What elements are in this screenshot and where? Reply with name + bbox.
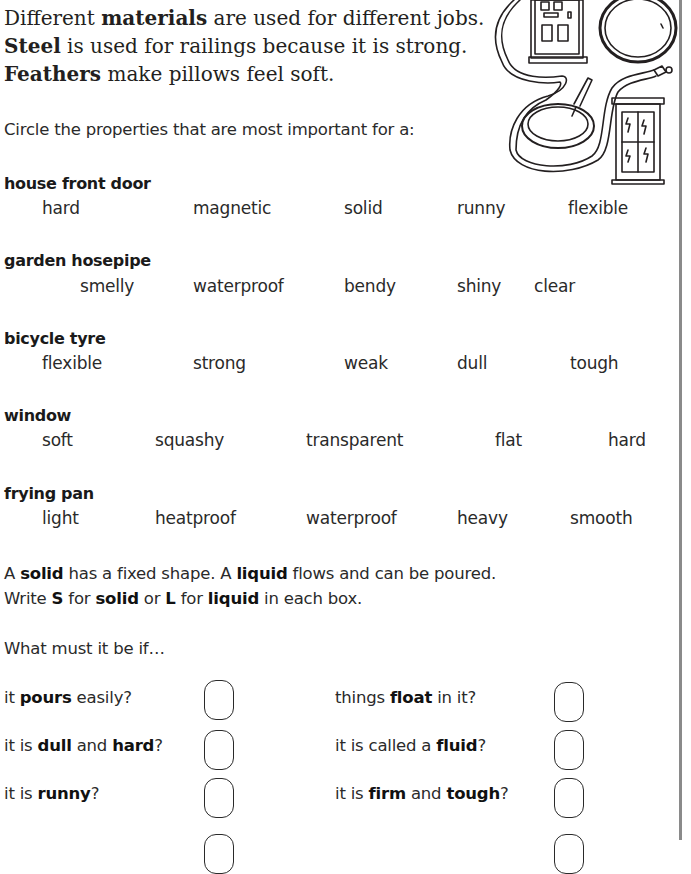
bold-term: solid [20,564,63,583]
text-segment: ? [91,784,100,803]
question-right-3: it is firm and tough? [335,784,509,803]
property-option[interactable]: waterproof [306,508,397,528]
text-segment: in it? [432,688,476,707]
door-icon [529,0,587,63]
answer-box[interactable] [204,680,234,720]
property-option[interactable]: magnetic [193,198,271,218]
property-option[interactable]: heavy [457,508,508,528]
bold-term: firm [369,784,406,803]
text-segment: Write [4,589,52,608]
bold-term: float [390,688,432,707]
property-option[interactable]: runny [457,198,505,218]
property-option[interactable]: solid [344,198,383,218]
text-segment: in each box. [259,589,362,608]
window-icon [612,98,664,184]
intro-text-segment: are used for different jobs. [207,6,484,30]
bold-term: Steel [4,34,61,58]
bold-term: pours [20,688,72,707]
question-left-1: it pours easily? [4,688,132,707]
box-instruction: Write S for solid or L for liquid in eac… [4,589,362,608]
answer-box[interactable] [204,730,234,770]
answer-box[interactable] [554,682,584,722]
text-segment: has a fixed shape. A [63,564,236,583]
question-left-2: it is dull and hard? [4,736,163,755]
bold-term: dull [38,736,72,755]
property-option[interactable]: light [42,508,79,528]
item-title-house-front-door: house front door [4,174,151,193]
text-segment: for [176,589,208,608]
answer-box[interactable] [204,778,234,818]
bold-term: S [52,589,64,608]
property-option[interactable]: heatproof [155,508,236,528]
text-segment: flows and can be poured. [288,564,496,583]
property-option[interactable]: hard [42,198,80,218]
text-segment: it is [4,736,38,755]
text-segment: it [4,688,20,707]
bold-term: tough [446,784,500,803]
property-option[interactable]: strong [193,353,246,373]
intro-line-3: Feathers make pillows feel soft. [4,60,504,88]
text-segment: or [139,589,166,608]
item-title-garden-hosepipe: garden hosepipe [4,251,151,270]
property-option[interactable]: shiny [457,276,501,296]
property-option[interactable]: smelly [80,276,134,296]
bold-term: liquid [236,564,287,583]
property-option[interactable]: flat [495,430,522,450]
intro-line-2: Steel is used for railings because it is… [4,32,504,60]
question-right-2: it is called a fluid? [335,736,486,755]
property-option[interactable]: waterproof [193,276,284,296]
bold-term: materials [101,6,207,30]
property-option[interactable]: soft [42,430,73,450]
text-segment: ? [477,736,486,755]
page-edge-rule [679,0,682,840]
property-option[interactable]: weak [344,353,388,373]
property-option[interactable]: smooth [570,508,632,528]
property-option[interactable]: hard [608,430,646,450]
bold-term: L [165,589,175,608]
intro-text-segment: is used for railings because it is stron… [61,34,468,58]
item-title-frying-pan: frying pan [4,484,94,503]
bold-term: solid [95,589,138,608]
property-option[interactable]: flexible [568,198,628,218]
answer-box[interactable] [554,730,584,770]
bold-term: fluid [436,736,477,755]
property-option[interactable]: dull [457,353,487,373]
item-title-bicycle-tyre: bicycle tyre [4,329,105,348]
solid-liquid-definition: A solid has a fixed shape. A liquid flow… [4,564,496,583]
text-segment: and [406,784,447,803]
answer-box[interactable] [204,834,234,874]
text-segment: and [72,736,113,755]
tyre-icon [600,0,676,62]
bold-term: liquid [208,589,259,608]
answer-box[interactable] [554,778,584,818]
intro-line-1: Different materials are used for differe… [4,4,504,32]
property-option[interactable]: transparent [306,430,403,450]
text-segment: it is called a [335,736,436,755]
text-segment: it is [335,784,369,803]
property-option[interactable]: flexible [42,353,102,373]
property-option[interactable]: squashy [155,430,224,450]
text-segment: ? [154,736,163,755]
property-option[interactable]: bendy [344,276,396,296]
answer-box[interactable] [554,834,584,874]
materials-illustration [488,0,682,190]
instruction-text: Circle the properties that are most impo… [4,120,414,139]
text-segment: things [335,688,390,707]
property-option[interactable]: tough [570,353,618,373]
question-left-3: it is runny? [4,784,99,803]
text-segment: A [4,564,20,583]
question-prompt: What must it be if… [4,639,165,658]
item-title-window: window [4,406,71,425]
text-segment: ? [500,784,509,803]
bold-term: Feathers [4,62,101,86]
intro-text-segment: Different [4,6,101,30]
text-segment: for [63,589,95,608]
property-option[interactable]: clear [534,276,575,296]
bold-term: runny [38,784,91,803]
intro-text: Different materials are used for differe… [4,4,504,88]
bold-term: hard [112,736,154,755]
intro-text-segment: make pillows feel soft. [101,62,334,86]
text-segment: easily? [72,688,132,707]
text-segment: it is [4,784,38,803]
